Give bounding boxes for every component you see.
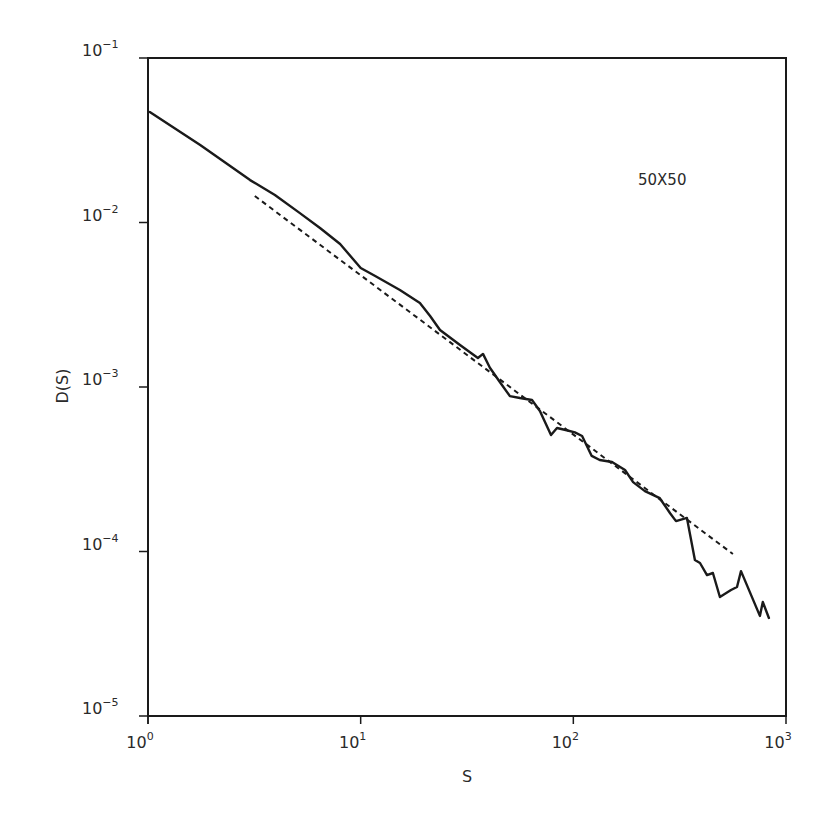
plot-border — [148, 58, 786, 716]
x-axis-ticks: 100101102103 — [126, 716, 791, 752]
y-axis-ticks: 10−110−210−310−410−5 — [82, 38, 148, 724]
y-tick-label: 10−3 — [82, 367, 119, 389]
y-tick-label: 10−4 — [82, 532, 119, 554]
y-axis-label: D(S) — [53, 369, 72, 404]
grid-size-annotation: 50X50 — [638, 171, 686, 189]
plot-frame — [148, 58, 786, 716]
y-tick-label: 10−1 — [82, 38, 119, 60]
x-tick-label: 103 — [764, 730, 791, 752]
y-tick-label: 10−5 — [82, 696, 119, 718]
x-tick-label: 102 — [552, 730, 579, 752]
x-tick-label: 100 — [126, 730, 153, 752]
fit-line-dashed — [255, 196, 733, 554]
y-tick-label: 10−2 — [82, 203, 119, 225]
x-tick-label: 101 — [339, 730, 366, 752]
chart: 100101102103 10−110−210−310−410−5 S D(S)… — [0, 0, 839, 814]
x-axis-label: S — [462, 767, 472, 786]
